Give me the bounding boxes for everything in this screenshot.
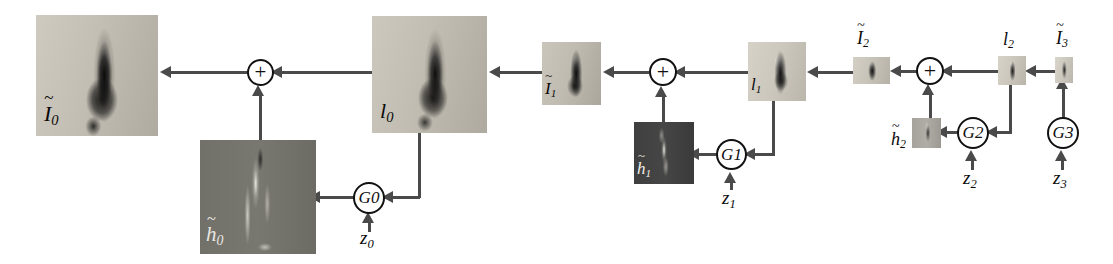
edge-l0-to-G0-vertical <box>418 128 421 198</box>
label-h1-tilde: ~h1 <box>637 160 651 179</box>
arrowhead-I3-to-l2 <box>1025 65 1036 77</box>
arrowhead-z1-to-G1 <box>724 172 736 183</box>
label-h2-tilde: ~h2 <box>891 130 906 151</box>
edge-h0-to-plus0 <box>259 96 262 142</box>
label-sub: 1 <box>733 145 742 164</box>
label-sub: 3 <box>1065 123 1074 142</box>
arrowhead-I2-to-l1 <box>807 66 818 78</box>
noise-input-z3: z3 <box>1053 168 1067 190</box>
edge-l2-to-G2-vertical <box>1009 83 1012 133</box>
plus-glyph: + <box>657 59 669 85</box>
label-sub: 3 <box>1062 36 1068 50</box>
label-I2-tilde: ~I2 <box>857 29 869 50</box>
label-I3-tilde: ~I3 <box>1056 29 1068 50</box>
image-tile-l0: l0 <box>372 16 487 133</box>
generator-G0: G0 <box>353 182 385 214</box>
label-sub: 0 <box>51 112 58 128</box>
label-I0-tilde: ~I0 <box>44 103 59 128</box>
generator-label: G1 <box>721 145 742 165</box>
label-base: G <box>721 145 733 164</box>
edge-l1-to-G1-vertical <box>772 96 775 154</box>
generator-G3: G3 <box>1047 117 1079 149</box>
edge-l0-to-plus0 <box>274 71 372 74</box>
label-l2: l2 <box>1003 30 1014 51</box>
label-sub: 2 <box>863 36 869 50</box>
arrowhead-z2-to-G2 <box>965 150 977 161</box>
arrowhead-h0-to-plus0 <box>252 85 264 96</box>
edge-G3-to-I3 <box>1062 85 1065 118</box>
label-base: G <box>1053 123 1065 142</box>
plus-glyph: + <box>255 60 267 85</box>
label-h0-tilde: ~h0 <box>206 224 223 248</box>
label-sub: 2 <box>1008 37 1014 51</box>
noise-input-z0: z0 <box>360 228 374 250</box>
arrowhead-z3-to-G3 <box>1055 150 1067 161</box>
label-sub: 1 <box>756 83 762 95</box>
image-tile-h0-tilde: ~h0 <box>200 140 316 254</box>
label-sub: 1 <box>551 87 557 99</box>
arrowhead-plus1-to-I1 <box>603 66 614 78</box>
edge-plus0-to-I0 <box>170 71 248 74</box>
label-l0: l0 <box>380 100 393 125</box>
arrowhead-h2-to-plus2 <box>922 84 934 95</box>
generator-label: G0 <box>359 188 380 208</box>
generator-label: G3 <box>1053 123 1074 143</box>
label-sub: 1 <box>729 197 735 211</box>
label-base: G <box>359 188 371 207</box>
noise-input-z2: z2 <box>963 168 977 190</box>
generator-label: G2 <box>963 123 984 143</box>
arrowhead-I1-to-l0 <box>489 66 500 78</box>
edge-G0-to-h0 <box>318 196 356 199</box>
label-l1: l1 <box>751 76 761 95</box>
generator-G2: G2 <box>957 117 989 149</box>
edge-I2-to-l1 <box>818 71 853 74</box>
edge-plus1-to-I1 <box>613 71 649 74</box>
edge-h2-to-plus2 <box>929 95 932 119</box>
label-sub: 2 <box>900 137 906 151</box>
image-tile-l1: l1 <box>748 42 806 101</box>
edge-l1-to-plus1 <box>677 71 748 74</box>
image-tile-l2 <box>998 56 1026 85</box>
image-tile-h2-tilde <box>912 118 941 148</box>
lapgan-sampling-diagram: ~I0 ~h0 l0 ~I1 ~h1 l1 ~I2 ~h2 <box>0 0 1113 264</box>
image-tile-I2-tilde <box>853 57 890 84</box>
edge-G1-to-h1 <box>696 153 718 156</box>
image-tile-I1-tilde: ~I1 <box>542 42 601 105</box>
edge-I1-to-l0 <box>500 71 542 74</box>
plus-glyph: + <box>924 58 936 84</box>
label-sub: 1 <box>646 167 652 179</box>
operator-plus-2: + <box>916 57 944 85</box>
edge-plus2-to-I2 <box>901 70 917 73</box>
arrowhead-h1-to-plus1 <box>655 86 667 97</box>
edge-l2-to-plus2 <box>944 70 998 73</box>
operator-plus-0: + <box>247 59 274 86</box>
operator-plus-1: + <box>649 58 677 86</box>
label-base: G <box>963 123 975 142</box>
noise-input-z1: z1 <box>722 188 736 210</box>
label-I1-tilde: ~I1 <box>545 80 556 99</box>
image-tile-I3-tilde <box>1055 57 1073 83</box>
label-sub: 2 <box>970 177 976 191</box>
label-sub: 0 <box>371 188 380 207</box>
generator-G1: G1 <box>716 139 747 170</box>
label-sub: 3 <box>1060 177 1066 191</box>
arrowhead-plus0-to-I0 <box>160 66 171 78</box>
edge-h1-to-plus1 <box>662 97 665 123</box>
label-sub: 2 <box>975 123 984 142</box>
image-tile-I0-tilde: ~I0 <box>36 15 158 136</box>
label-sub: 0 <box>367 237 373 251</box>
arrowhead-plus2-to-I2 <box>890 65 901 77</box>
label-sub: 0 <box>386 109 393 125</box>
label-sub: 0 <box>217 233 224 248</box>
image-tile-h1-tilde: ~h1 <box>634 122 694 184</box>
